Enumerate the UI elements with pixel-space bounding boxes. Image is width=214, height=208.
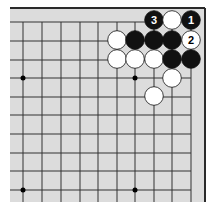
move-number-label: 2 [188, 34, 194, 46]
star-point [21, 76, 26, 81]
black-stone [163, 31, 182, 50]
white-stone [145, 87, 164, 106]
star-point [133, 188, 138, 193]
go-board: 312 [0, 0, 214, 208]
move-number-label: 3 [151, 14, 157, 26]
white-stone [108, 50, 127, 69]
white-stone: 2 [182, 31, 201, 50]
black-stone [163, 50, 182, 69]
white-stone [108, 31, 127, 50]
black-stone [182, 50, 201, 69]
white-stone [126, 50, 145, 69]
black-stone: 3 [145, 11, 164, 30]
star-point [21, 188, 26, 193]
black-stone [145, 31, 164, 50]
black-stone: 1 [182, 11, 201, 30]
white-stone [163, 69, 182, 88]
white-stone [145, 50, 164, 69]
white-stone [163, 11, 182, 30]
move-number-label: 1 [188, 14, 194, 26]
black-stone [126, 31, 145, 50]
star-point [133, 76, 138, 81]
